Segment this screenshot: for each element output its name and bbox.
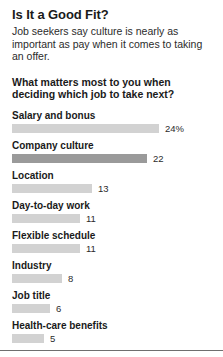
footer-divider [0, 350, 223, 351]
bar [12, 184, 92, 193]
bar-value-label: 13 [98, 183, 109, 194]
page-title: Is It a Good Fit? [12, 0, 211, 22]
bar [12, 124, 159, 133]
bar [12, 154, 147, 163]
deck-text: Job seekers say culture is nearly as imp… [12, 25, 208, 63]
bar-category-label: Industry [12, 260, 211, 272]
bar-track: 11 [12, 243, 211, 254]
bar-category-label: Job title [12, 290, 211, 302]
bar-track: 22 [12, 153, 211, 164]
bar-category-label: Salary and bonus [12, 110, 211, 122]
bar [12, 334, 44, 343]
bar-track: 6 [12, 303, 211, 314]
bar-value-label: 22 [153, 153, 164, 164]
bar [12, 244, 80, 253]
chart-row: Day-to-day work11 [12, 200, 211, 224]
bar-value-label: 11 [86, 213, 96, 224]
bar-value-label: 5 [50, 333, 55, 344]
bar-track: 8 [12, 273, 211, 284]
bar-track: 11 [12, 213, 211, 224]
chart-row: Industry8 [12, 260, 211, 284]
chart-row: Company culture22 [12, 140, 211, 164]
bar-chart: Salary and bonus24%Company culture22Loca… [12, 110, 211, 344]
bar-category-label: Company culture [12, 140, 211, 152]
infographic-panel: Is It a Good Fit? Job seekers say cultur… [0, 0, 223, 357]
bar-track: 13 [12, 183, 211, 194]
chart-row: Health-care benefits5 [12, 320, 211, 344]
bar-value-label: 11 [86, 243, 96, 254]
bar [12, 304, 50, 313]
chart-row: Salary and bonus24% [12, 110, 211, 134]
bar-track: 5 [12, 333, 211, 344]
bar-category-label: Day-to-day work [12, 200, 211, 212]
bar-value-label: 8 [68, 273, 73, 284]
bar-category-label: Location [12, 170, 211, 182]
bar [12, 274, 62, 283]
bar-category-label: Health-care benefits [12, 320, 211, 332]
bar-track: 24% [12, 123, 211, 134]
chart-row: Flexible schedule11 [12, 230, 211, 254]
bar-category-label: Flexible schedule [12, 230, 211, 242]
chart-row: Job title6 [12, 290, 211, 314]
survey-question: What matters most to you when deciding w… [12, 76, 208, 101]
bar [12, 214, 80, 223]
bar-value-label: 6 [56, 303, 61, 314]
bar-value-label: 24% [165, 123, 184, 134]
chart-row: Location13 [12, 170, 211, 194]
